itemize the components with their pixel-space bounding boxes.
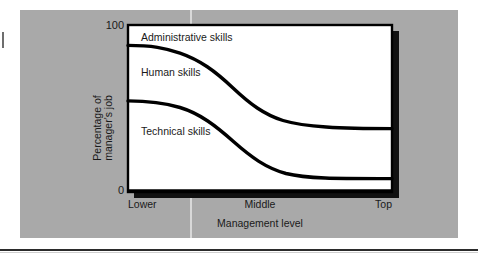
- x-tick-label-lower: Lower: [128, 198, 157, 210]
- x-tick-label-middle: Middle: [245, 198, 276, 210]
- chart-svg: 100 0 Percentage of manager's job Lower …: [0, 0, 478, 258]
- page-bottom-rule: [0, 249, 478, 251]
- y-axis-title-line2: manager's job: [102, 95, 114, 161]
- scanned-figure-page: 100 0 Percentage of manager's job Lower …: [0, 0, 478, 258]
- y-tick-label-100: 100: [106, 19, 124, 31]
- y-tick-label-0: 0: [118, 184, 124, 196]
- series-label-technical-skills: Technical skills: [141, 125, 210, 137]
- y-axis-title: Percentage of manager's job: [91, 95, 114, 161]
- x-tick-label-top: Top: [375, 198, 392, 210]
- series-label-administrative-skills: Administrative skills: [141, 31, 233, 43]
- skills-by-management-level-chart: 100 0 Percentage of manager's job Lower …: [0, 0, 478, 258]
- x-axis-title: Management level: [217, 217, 303, 229]
- series-label-human-skills: Human skills: [141, 66, 201, 78]
- page-bottom-rule-secondary: [0, 252, 478, 253]
